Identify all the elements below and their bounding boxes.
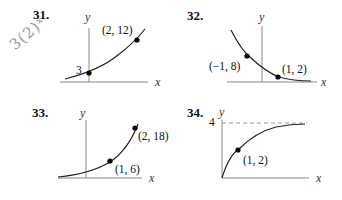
- y-axis-label: y: [259, 10, 264, 25]
- x-axis-label: x: [149, 171, 154, 186]
- point-label: (1, 2): [243, 154, 268, 166]
- graph-33-plot: [0, 100, 171, 200]
- y-axis-label: y: [85, 10, 90, 25]
- y-axis-label: y: [219, 105, 224, 120]
- asymptote-label: 4: [209, 116, 215, 128]
- point-label: 3: [76, 64, 82, 76]
- graph-31: 3(2)ˣ 31. y x 3 (2, 12): [0, 0, 171, 100]
- point-label: (1, 2): [282, 63, 307, 75]
- point-label: (1, 6): [115, 163, 140, 175]
- graph-32: 32. y x (−1, 8) (1, 2): [171, 0, 342, 100]
- graph-33: 33. y x (1, 6) (2, 18): [0, 100, 171, 200]
- graph-34: 34. y x 4 (1, 2): [171, 100, 342, 200]
- x-axis-label: x: [321, 75, 326, 90]
- x-axis-label: x: [316, 171, 321, 186]
- point-label: (−1, 8): [209, 60, 240, 72]
- graph-32-plot: [171, 0, 342, 100]
- x-axis-label: x: [155, 75, 160, 90]
- point-label: (2, 18): [138, 130, 169, 142]
- y-axis-label: y: [80, 106, 85, 121]
- point-label: (2, 12): [102, 24, 133, 36]
